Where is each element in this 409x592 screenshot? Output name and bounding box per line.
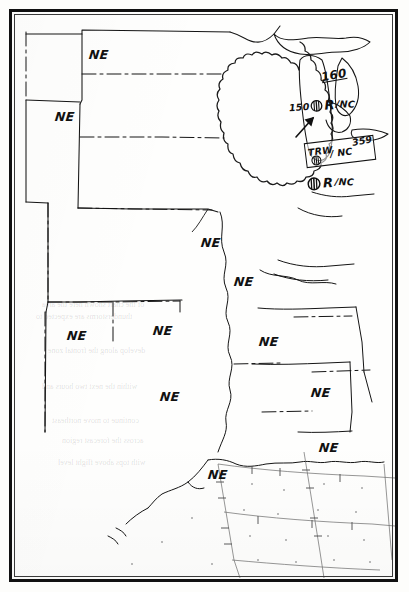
no-echo-label-north-dakota: NE bbox=[88, 47, 109, 62]
circled-cross-icon bbox=[310, 154, 322, 166]
no-echo-label-arkansas-tennessee: NE bbox=[258, 334, 279, 349]
no-echo-label-iowa-missouri: NE bbox=[200, 235, 221, 250]
map-border-frame: of the chart shown here the area thunder… bbox=[9, 9, 398, 582]
no-echo-label-south-dakota: NE bbox=[54, 109, 75, 124]
no-echo-label-texas: NE bbox=[159, 389, 180, 404]
sigmet-echo-nc-suffix: /NC bbox=[335, 98, 354, 110]
circled-cross-icon bbox=[307, 176, 322, 191]
sigmet-echo-r-letter: R bbox=[324, 97, 335, 113]
no-echo-label-new-mexico: NE bbox=[66, 328, 87, 343]
no-echo-label-louisiana-coast: NE bbox=[207, 467, 228, 482]
no-echo-label-oklahoma: NE bbox=[152, 323, 173, 338]
sigmet-altitude-150-value: 150 bbox=[289, 101, 310, 113]
no-echo-label-illinois: NE bbox=[233, 274, 254, 289]
sigmet-nc-label: / NC bbox=[330, 146, 354, 160]
circled-cross-icon bbox=[310, 99, 324, 113]
sigmet-sequence-number: 359 bbox=[351, 133, 373, 148]
sigmet-lower-r-letter: R bbox=[323, 175, 334, 191]
sigmet-lower-echo-group: R /NC bbox=[307, 174, 355, 191]
weather-map-page: of the chart shown here the area thunder… bbox=[0, 0, 409, 592]
no-echo-label-alabama-florida: NE bbox=[318, 440, 339, 455]
no-echo-label-mississippi-alabama: NE bbox=[310, 385, 331, 400]
sigmet-lower-nc-suffix: /NC bbox=[335, 176, 354, 188]
